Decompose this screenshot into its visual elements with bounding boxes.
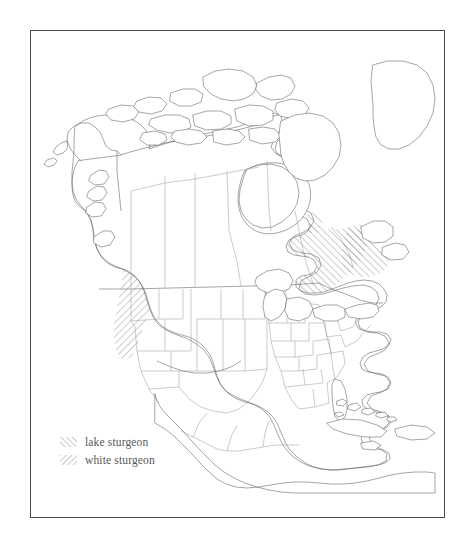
sturgeon-distribution-map-figure: lake sturgeon white sturgeon (0, 0, 472, 551)
legend-item-white-sturgeon: white sturgeon (60, 452, 250, 468)
back-hatch-swatch-icon (60, 455, 77, 465)
map-frame-border: lake sturgeon white sturgeon (30, 30, 445, 518)
map-legend: lake sturgeon white sturgeon (60, 434, 250, 470)
legend-label-white-sturgeon: white sturgeon (85, 454, 155, 467)
forward-hatch-swatch-icon (60, 437, 77, 447)
legend-item-lake-sturgeon: lake sturgeon (60, 434, 250, 450)
legend-label-lake-sturgeon: lake sturgeon (85, 436, 148, 449)
